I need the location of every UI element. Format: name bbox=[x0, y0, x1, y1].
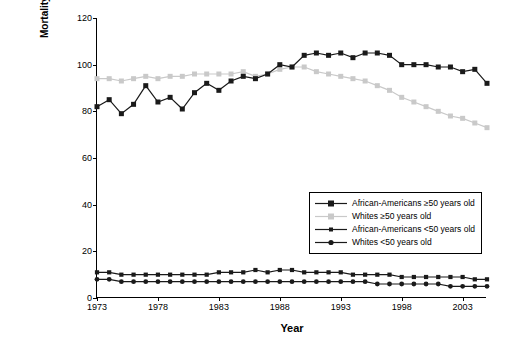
chart-legend: African-Americans ≥50 years old Whites ≥… bbox=[309, 192, 482, 254]
data-point bbox=[229, 79, 234, 84]
y-tick-label: 40 bbox=[62, 200, 92, 210]
data-point bbox=[216, 88, 221, 93]
data-point bbox=[156, 279, 161, 284]
data-point bbox=[461, 275, 465, 279]
data-point bbox=[241, 279, 246, 284]
data-point bbox=[290, 268, 294, 272]
data-point bbox=[338, 51, 343, 56]
data-point bbox=[473, 277, 477, 281]
data-point bbox=[217, 270, 221, 274]
data-point bbox=[266, 270, 270, 274]
x-tick-label: 1983 bbox=[209, 302, 229, 312]
x-tick-label: 1973 bbox=[87, 302, 107, 312]
data-point bbox=[192, 72, 197, 77]
data-point bbox=[350, 55, 355, 60]
legend-label: African-Americans ≥50 years old bbox=[352, 197, 475, 210]
data-point bbox=[192, 273, 196, 277]
x-tick-label: 2003 bbox=[453, 302, 473, 312]
legend-key-icon bbox=[314, 224, 348, 235]
data-point bbox=[277, 67, 282, 72]
legend-label: Whites <50 years old bbox=[352, 236, 432, 249]
data-point bbox=[241, 69, 246, 74]
legend-label: African-Americans <50 years old bbox=[352, 223, 475, 236]
data-point bbox=[278, 268, 282, 272]
series-0 bbox=[95, 51, 490, 117]
data-point bbox=[375, 282, 380, 287]
data-point bbox=[180, 279, 185, 284]
data-point bbox=[460, 116, 465, 121]
data-point bbox=[460, 69, 465, 74]
data-point bbox=[485, 284, 490, 289]
y-tick-label: 20 bbox=[62, 246, 92, 256]
data-point bbox=[168, 74, 173, 79]
data-point bbox=[290, 279, 295, 284]
data-point bbox=[351, 273, 355, 277]
data-point bbox=[302, 270, 306, 274]
data-point bbox=[375, 51, 380, 56]
data-point bbox=[277, 279, 282, 284]
data-point bbox=[387, 282, 392, 287]
data-point bbox=[253, 76, 258, 81]
data-point bbox=[460, 284, 465, 289]
data-point bbox=[448, 114, 453, 119]
data-point bbox=[192, 90, 197, 95]
data-point bbox=[375, 273, 379, 277]
legend-label: Whites ≥50 years old bbox=[352, 210, 431, 223]
data-point bbox=[95, 277, 100, 282]
y-tick-label: 60 bbox=[62, 153, 92, 163]
legend-key-icon bbox=[314, 237, 348, 248]
data-point bbox=[204, 81, 209, 86]
data-point bbox=[436, 282, 441, 287]
data-point bbox=[448, 65, 453, 70]
data-point bbox=[302, 53, 307, 58]
plot-area: Mortality rate per 100,000 Year 02040608… bbox=[96, 18, 486, 298]
series-3 bbox=[95, 277, 490, 289]
data-point bbox=[302, 65, 307, 70]
y-tick-label: 120 bbox=[62, 13, 92, 23]
legend-item: African-Americans <50 years old bbox=[314, 223, 475, 236]
data-point bbox=[387, 273, 391, 277]
data-point bbox=[131, 102, 136, 107]
data-point bbox=[216, 72, 221, 77]
data-point bbox=[241, 74, 246, 79]
data-point bbox=[229, 72, 234, 77]
data-point bbox=[472, 121, 477, 126]
data-point bbox=[155, 100, 160, 105]
data-point bbox=[168, 279, 173, 284]
data-point bbox=[253, 268, 257, 272]
data-point bbox=[485, 125, 490, 130]
data-point bbox=[387, 88, 392, 93]
data-point bbox=[131, 279, 136, 284]
data-point bbox=[375, 83, 380, 88]
data-point bbox=[424, 282, 429, 287]
data-point bbox=[472, 67, 477, 72]
data-point bbox=[216, 279, 221, 284]
data-point bbox=[144, 273, 148, 277]
data-point bbox=[119, 111, 124, 116]
y-axis-label: Mortality rate per 100,000 bbox=[39, 0, 50, 78]
data-point bbox=[290, 65, 295, 70]
data-point bbox=[143, 83, 148, 88]
data-point bbox=[241, 270, 245, 274]
data-point bbox=[302, 279, 307, 284]
data-point bbox=[363, 79, 368, 84]
data-point bbox=[424, 104, 429, 109]
data-point bbox=[400, 275, 404, 279]
data-point bbox=[180, 107, 185, 112]
x-tick-label: 1978 bbox=[148, 302, 168, 312]
data-point bbox=[107, 97, 112, 102]
data-point bbox=[338, 74, 343, 79]
x-tick-label: 1998 bbox=[392, 302, 412, 312]
data-point bbox=[168, 273, 172, 277]
data-point bbox=[363, 279, 368, 284]
x-tick-label: 1988 bbox=[270, 302, 290, 312]
data-point bbox=[351, 279, 356, 284]
data-point bbox=[95, 76, 100, 81]
data-point bbox=[131, 76, 136, 81]
data-point bbox=[387, 53, 392, 58]
data-point bbox=[338, 279, 343, 284]
data-point bbox=[95, 270, 99, 274]
data-point bbox=[326, 72, 331, 77]
data-series-layer bbox=[97, 18, 487, 298]
data-point bbox=[448, 275, 452, 279]
